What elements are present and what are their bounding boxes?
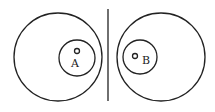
point-a-marker bbox=[75, 49, 80, 54]
right-inner-circle-b bbox=[123, 40, 157, 74]
right-outer-circle bbox=[117, 13, 205, 101]
label-a: A bbox=[70, 57, 80, 70]
label-b: B bbox=[142, 54, 150, 67]
left-outer-circle bbox=[14, 13, 102, 101]
two-circle-diagram: A B bbox=[0, 0, 215, 112]
left-system bbox=[14, 13, 102, 101]
point-b-marker bbox=[133, 54, 138, 59]
right-system bbox=[117, 13, 205, 101]
